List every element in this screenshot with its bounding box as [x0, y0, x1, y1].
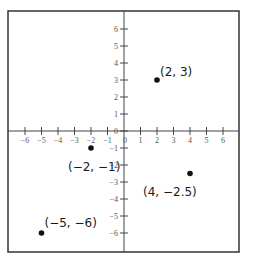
x-tick-label: 4	[188, 136, 192, 145]
x-tick-label: −3	[70, 136, 79, 145]
y-tick-label: 0	[114, 127, 118, 136]
point-label: (2, 3)	[160, 65, 192, 79]
y-tick-label: 6	[114, 25, 118, 34]
x-tick-label: −6	[21, 136, 30, 145]
data-point: (−5, −6)	[39, 216, 97, 236]
point-label: (−5, −6)	[45, 216, 97, 230]
y-tick-label: 5	[114, 42, 118, 51]
x-tick-label: −2	[87, 136, 96, 145]
y-tick-label: −1	[109, 144, 118, 153]
x-tick-label: 6	[221, 136, 225, 145]
x-tick-label: −5	[37, 136, 46, 145]
x-tick-label: 3	[172, 136, 176, 145]
x-tick-label: 5	[205, 136, 209, 145]
y-tick-label: −5	[109, 212, 118, 221]
coordinate-plane: −6−5−4−3−2−11234560 −6−5−4−3−2−10123456 …	[0, 0, 256, 270]
point-label: (−2, −1)	[68, 160, 120, 174]
y-tick-label: −3	[109, 178, 118, 187]
y-tick-label: 1	[114, 110, 118, 119]
y-tick-label: 4	[114, 59, 118, 68]
y-tick-label: −4	[109, 195, 118, 204]
point-marker	[187, 171, 193, 177]
point-marker	[154, 77, 160, 83]
y-tick-label: −6	[109, 229, 118, 238]
y-tick-label: 3	[114, 76, 118, 85]
x-tick-label: 2	[155, 136, 159, 145]
x-axis-ticks: −6−5−4−3−2−11234560	[21, 127, 225, 145]
y-tick-label: 2	[114, 93, 118, 102]
point-marker	[88, 145, 94, 151]
x-tick-label-zero: 0	[123, 136, 127, 145]
x-tick-label: 1	[139, 136, 143, 145]
x-tick-label: −4	[54, 136, 63, 145]
data-point: (2, 3)	[154, 65, 192, 83]
point-label: (4, −2.5)	[143, 185, 197, 199]
point-marker	[39, 230, 45, 236]
data-point: (4, −2.5)	[143, 171, 197, 199]
